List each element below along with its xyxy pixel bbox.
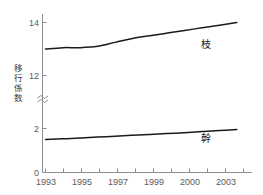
x-axis-ticks — [46, 169, 244, 173]
x-tick-label-1995: 1995 — [72, 177, 92, 187]
x-axis-tick-labels: 1993 1995 1997 1999 2000 2003 — [36, 177, 236, 187]
y-axis-tick-labels: 14 12 2 0 — [29, 18, 39, 178]
y-tick-label-14: 14 — [29, 18, 39, 28]
x-tick-label-1997: 1997 — [108, 177, 128, 187]
x-tick-label-1999: 1999 — [144, 177, 164, 187]
y-axis-label-char-3: 数 — [14, 93, 23, 103]
line-chart-svg: 移 行 係 数 14 12 2 0 — [0, 0, 263, 195]
y-axis-label-char-0: 移 — [14, 63, 23, 73]
y-axis-label-char-2: 係 — [14, 83, 23, 93]
series-label-branch: 枝 — [201, 38, 211, 50]
x-tick-label-2003: 2003 — [216, 177, 236, 187]
y-axis-label: 移 行 係 数 — [14, 63, 23, 103]
x-tick-label-1993: 1993 — [36, 177, 56, 187]
y-tick-label-12: 12 — [29, 71, 39, 81]
series-label-trunk: 幹 — [201, 132, 211, 144]
chart-figure: 移 行 係 数 14 12 2 0 — [0, 0, 263, 195]
x-tick-label-2000: 2000 — [180, 177, 200, 187]
y-axis-label-char-1: 行 — [14, 73, 23, 83]
series-labels: 枝 幹 — [201, 38, 211, 144]
y-tick-label-2: 2 — [34, 124, 39, 134]
